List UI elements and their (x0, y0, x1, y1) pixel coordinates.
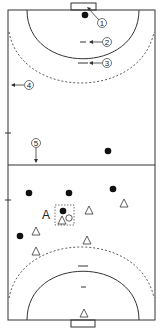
attacker-icon (26, 190, 33, 197)
attacker-icon (110, 186, 117, 193)
bottom-free-throw-line (9, 247, 154, 298)
svg-text:2: 2 (105, 38, 110, 47)
attacker-icon (105, 148, 112, 155)
defender-icon (120, 199, 128, 207)
attacker-icon (17, 233, 24, 240)
defender-icon (83, 236, 91, 244)
attacker-icon (60, 208, 67, 215)
defender-icon (58, 216, 66, 224)
attacker-icon (66, 190, 73, 197)
arrow-3-head (89, 61, 93, 65)
svg-text:5: 5 (34, 139, 39, 148)
callout-3: 3 (103, 59, 112, 69)
arrow-2-head (89, 40, 93, 44)
defender-icon (80, 309, 88, 317)
handball-court-diagram: 1 2 3 4 5 A (0, 0, 162, 335)
callout-5: 5 (32, 139, 41, 149)
bottom-goal (71, 320, 95, 327)
defender-icon (85, 206, 93, 214)
group-a-label: A (42, 208, 50, 222)
callout-1: 1 (98, 19, 107, 29)
svg-text:3: 3 (105, 59, 110, 68)
ball-icon (66, 215, 72, 221)
defender-icon (32, 247, 40, 255)
callout-4: 4 (25, 81, 34, 91)
arrow-4-head (11, 83, 15, 87)
callout-2: 2 (103, 38, 112, 48)
attacker-icon (82, 12, 89, 19)
defender-icon (32, 227, 40, 235)
top-free-throw-line (9, 32, 154, 83)
arrow-5-head (34, 159, 38, 163)
svg-text:4: 4 (27, 81, 32, 90)
svg-text:1: 1 (100, 19, 105, 28)
top-goal (71, 3, 96, 10)
